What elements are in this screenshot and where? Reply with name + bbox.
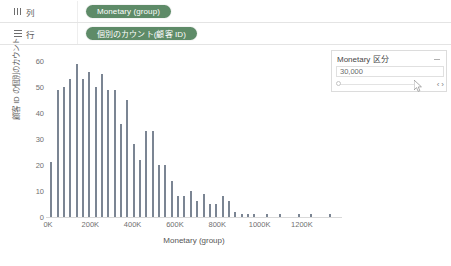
filter-value-field[interactable]: 30,000 [336,66,444,77]
filter-card-monetary[interactable]: Monetary 区分 30,000 ‹ › [331,50,447,92]
y-tick-label: 20 [36,161,44,170]
bar[interactable] [171,181,173,217]
rows-shelf-well[interactable]: 個別のカウント(顧客 ID) [78,23,451,44]
bar[interactable] [126,100,128,217]
filter-card-title: Monetary 区分 [337,53,433,64]
columns-shelf[interactable]: 列 Monetary (group) [0,1,451,23]
slider-nav-group[interactable]: ‹ › [437,79,444,90]
filter-card-header: Monetary 区分 [332,51,446,66]
bar[interactable] [88,72,90,217]
rows-label-text: 行 [26,28,35,40]
bar[interactable] [209,204,211,217]
filter-value-text: 30,000 [340,67,363,76]
bar[interactable] [183,196,185,217]
shelf-area: 列 Monetary (group) 行 個別のカウント(顧客 ID) [0,0,451,46]
filter-slider-row[interactable]: ‹ › [336,79,444,90]
x-axis-line [46,217,342,218]
bar[interactable] [114,90,116,217]
pill-distinct-count-customer-id[interactable]: 個別のカウント(顧客 ID) [86,27,197,40]
x-tick-label: 600K [166,220,184,229]
bar[interactable] [152,131,154,217]
bar[interactable] [215,204,217,217]
bar[interactable] [82,79,84,217]
pill-monetary-group[interactable]: Monetary (group) [86,5,171,18]
y-tick-label: 30 [36,135,44,144]
bar[interactable] [63,87,65,217]
bar[interactable] [76,64,78,217]
y-tick-label: 50 [36,83,44,92]
x-tick-label: 1000K [249,220,271,229]
bar[interactable] [145,131,147,217]
slider-next-arrow[interactable]: › [441,79,444,90]
x-tick-label: 200K [82,220,100,229]
bar[interactable] [133,144,135,217]
bar[interactable] [120,124,122,217]
bar[interactable] [196,201,198,217]
slider-handle[interactable] [336,81,341,86]
x-tick-label: 400K [124,220,142,229]
y-tick-label: 40 [36,109,44,118]
rows-shelf[interactable]: 行 個別のカウント(顧客 ID) [0,23,451,45]
bar[interactable] [164,165,166,217]
x-axis-title: Monetary (group) [48,236,340,245]
bar[interactable] [57,90,59,217]
x-tick-label: 0K [43,220,52,229]
bar[interactable] [222,196,224,217]
card-menu-icon[interactable] [433,55,441,63]
x-tick-label: 800K [209,220,227,229]
x-axis-ticks: 0K200K400K600K800K1000K1200K [48,220,340,232]
bar[interactable] [50,162,52,217]
mouse-cursor-icon [414,80,423,93]
bar[interactable] [203,194,205,217]
slider-prev-arrow[interactable]: ‹ [437,79,440,90]
bar-plot-area[interactable] [48,56,340,217]
bar[interactable] [190,191,192,217]
y-tick-label: 10 [36,187,44,196]
bar[interactable] [177,196,179,217]
bar[interactable] [139,160,141,217]
bar[interactable] [69,79,71,217]
bar[interactable] [101,74,103,217]
columns-label-text: 列 [26,6,35,18]
bar[interactable] [107,90,109,217]
bar[interactable] [228,201,230,217]
columns-shelf-well[interactable]: Monetary (group) [78,1,451,22]
slider-track[interactable] [340,84,418,85]
y-axis-ticks: 0102030405060 [22,56,44,222]
bar[interactable] [95,87,97,217]
y-tick-label: 60 [36,57,44,66]
bar[interactable] [158,165,160,217]
x-tick-label: 1200K [291,220,313,229]
